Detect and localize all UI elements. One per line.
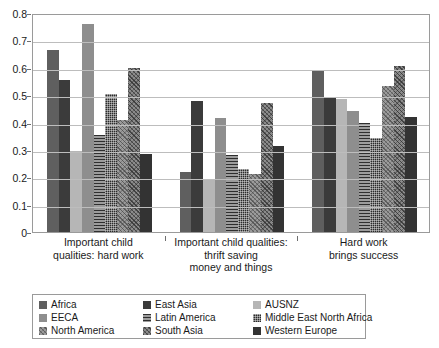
legend-label: South Asia: [155, 326, 203, 336]
x-axis-tick: [297, 236, 298, 241]
bar: [59, 80, 71, 232]
bar: [140, 154, 152, 232]
bar: [405, 117, 417, 232]
legend-label: Africa: [51, 300, 77, 310]
bar: [180, 172, 192, 232]
legend-item[interactable]: South Asia: [143, 324, 253, 337]
y-axis-tick: [27, 151, 31, 152]
plot-area: [32, 14, 430, 233]
y-axis-tick: [27, 96, 31, 97]
x-axis-category-label: Hard workbrings success: [297, 236, 430, 261]
gridline: [33, 179, 429, 180]
bar: [226, 155, 238, 232]
bar: [117, 120, 129, 232]
legend-item[interactable]: Africa: [39, 298, 143, 311]
y-axis-tick: [27, 41, 31, 42]
bar-group: [33, 15, 166, 232]
x-axis-category-label: Important child qualities:thrift savingm…: [165, 236, 298, 274]
gridline: [33, 97, 429, 98]
bar: [105, 94, 117, 232]
legend-label: Middle East North Africa: [265, 313, 372, 323]
x-axis-category-labels: Important childqualities: hard workImpor…: [32, 236, 430, 284]
legend-swatch: [253, 314, 261, 322]
bar: [70, 151, 82, 232]
legend-item[interactable]: EECA: [39, 311, 143, 324]
legend-item[interactable]: North America: [39, 324, 143, 337]
legend-label: North America: [51, 326, 114, 336]
bar: [215, 118, 227, 232]
bar-groups: [33, 15, 429, 232]
bar: [238, 169, 250, 233]
bar: [261, 103, 273, 232]
legend-label: Western Europe: [265, 326, 337, 336]
y-axis-tick: [27, 206, 31, 207]
bar: [382, 86, 394, 232]
bar: [359, 123, 371, 233]
legend-label: Latin America: [155, 313, 216, 323]
gridline: [33, 125, 429, 126]
bar-group: [166, 15, 299, 232]
legend-swatch: [39, 327, 47, 335]
y-axis-tick: [27, 178, 31, 179]
legend: AfricaEast AsiaAUSNZEECALatin AmericaMid…: [32, 294, 366, 339]
legend-swatch: [39, 314, 47, 322]
gridline: [33, 207, 429, 208]
legend-label: East Asia: [155, 300, 197, 310]
legend-swatch: [143, 327, 151, 335]
bar: [94, 135, 106, 232]
bar: [203, 179, 215, 232]
legend-swatch: [39, 301, 47, 309]
y-axis-tick: [27, 233, 31, 234]
bar: [47, 50, 59, 232]
legend-item[interactable]: AUSNZ: [253, 298, 372, 311]
x-axis-category-label: Important childqualities: hard work: [32, 236, 165, 261]
bar: [347, 111, 359, 232]
bar-chart: 0.80.70.60.50.40.30.20.10 Important chil…: [0, 0, 439, 348]
bar: [191, 101, 203, 232]
legend-item[interactable]: East Asia: [143, 298, 253, 311]
bar: [324, 97, 336, 233]
legend-swatch: [253, 301, 261, 309]
y-axis-tick: [27, 69, 31, 70]
x-axis-tick: [165, 236, 166, 241]
y-axis-ticks: [0, 14, 32, 233]
legend-swatch: [143, 301, 151, 309]
y-axis-tick: [27, 124, 31, 125]
gridline: [33, 70, 429, 71]
legend-label: EECA: [51, 313, 78, 323]
bar: [249, 174, 261, 232]
bar: [336, 99, 348, 232]
legend-swatch: [253, 327, 261, 335]
gridline: [33, 42, 429, 43]
legend-item[interactable]: Middle East North Africa: [253, 311, 372, 324]
legend-item[interactable]: Western Europe: [253, 324, 372, 337]
gridline: [33, 152, 429, 153]
y-axis-tick: [27, 14, 31, 15]
bar: [82, 24, 94, 232]
bar-group: [298, 15, 431, 232]
legend-item[interactable]: Latin America: [143, 311, 253, 324]
legend-swatch: [143, 314, 151, 322]
bar: [273, 146, 285, 232]
legend-label: AUSNZ: [265, 300, 299, 310]
